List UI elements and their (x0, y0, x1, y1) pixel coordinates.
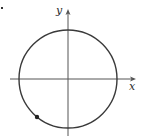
unit-circle-figure: y x (0, 0, 141, 136)
diagram-canvas (0, 0, 141, 136)
point-on-circle (35, 115, 39, 119)
y-axis-label: y (56, 5, 62, 16)
y-axis (66, 9, 71, 136)
x-axis-label: x (129, 81, 135, 92)
bullet-mark-icon (1, 7, 3, 9)
